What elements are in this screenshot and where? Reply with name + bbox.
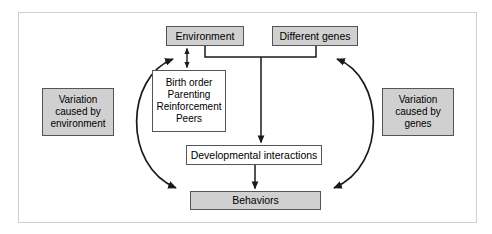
influence-item-birth-order: Birth order	[166, 77, 213, 89]
influence-item-reinforcement: Reinforcement	[156, 101, 221, 113]
node-developmental-interactions-label: Developmental interactions	[191, 149, 318, 161]
node-environment-label: Environment	[176, 30, 235, 42]
influence-item-parenting: Parenting	[168, 89, 211, 101]
node-environment[interactable]: Environment	[166, 26, 244, 46]
diagram-canvas: Environment Different genes Birth order …	[0, 0, 492, 234]
node-different-genes[interactable]: Different genes	[272, 26, 358, 46]
variation-genes-line-2: caused by	[395, 106, 441, 118]
node-variation-caused-by-genes[interactable]: Variation caused by genes	[382, 88, 454, 136]
variation-genes-line-3: genes	[404, 118, 431, 130]
variation-env-line-1: Variation	[59, 94, 98, 106]
node-different-genes-label: Different genes	[279, 30, 350, 42]
node-environmental-influences[interactable]: Birth order Parenting Reinforcement Peer…	[152, 70, 226, 132]
influence-item-peers: Peers	[176, 113, 202, 125]
connector-right-feedback-arc	[334, 59, 373, 188]
variation-genes-line-1: Variation	[399, 94, 438, 106]
node-developmental-interactions[interactable]: Developmental interactions	[186, 145, 322, 165]
variation-env-line-3: environment	[50, 118, 105, 130]
node-behaviors[interactable]: Behaviors	[190, 191, 321, 210]
node-behaviors-label: Behaviors	[232, 194, 279, 206]
variation-env-line-2: caused by	[55, 106, 101, 118]
node-variation-caused-by-environment[interactable]: Variation caused by environment	[42, 88, 114, 136]
